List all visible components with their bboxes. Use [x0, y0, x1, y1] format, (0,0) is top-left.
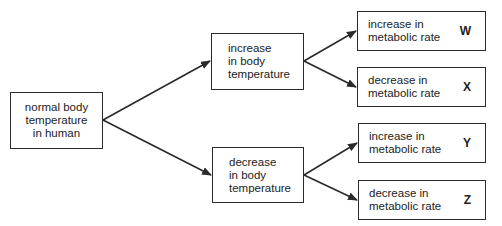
outcome-node-x: decrease in metabolic rate X [357, 67, 486, 107]
outcome-label: increase in metabolic rate [369, 130, 441, 156]
root-label: normal body temperature in human [25, 101, 88, 140]
outcome-node-z: decrease in metabolic rate Z [358, 180, 486, 220]
arrow-increase-to-w [304, 31, 356, 61]
branch-label: decrease in body temperature [229, 156, 291, 195]
outcome-node-y: increase in metabolic rate Y [358, 123, 486, 163]
arrow-root-to-decrease [103, 120, 211, 175]
outcome-letter: X [463, 81, 471, 94]
branch-label: increase in body temperature [228, 42, 290, 81]
arrow-root-to-increase [103, 61, 210, 120]
branch-node-decrease: decrease in body temperature [212, 147, 304, 203]
arrow-decrease-to-y [304, 143, 357, 175]
branch-node-increase: increase in body temperature [211, 33, 304, 90]
outcome-letter: W [460, 25, 471, 38]
outcome-letter: Y [463, 137, 471, 150]
arrow-increase-to-x [304, 61, 356, 87]
root-node: normal body temperature in human [10, 92, 103, 149]
arrow-decrease-to-z [304, 175, 357, 200]
outcome-label: decrease in metabolic rate [368, 74, 440, 100]
outcome-node-w: increase in metabolic rate W [357, 11, 486, 51]
outcome-letter: Z [464, 194, 471, 207]
outcome-label: decrease in metabolic rate [369, 187, 441, 213]
outcome-label: increase in metabolic rate [368, 18, 440, 44]
